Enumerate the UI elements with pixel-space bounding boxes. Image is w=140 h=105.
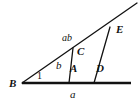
geometry-figure: B C E A D a b ab 1 [0, 0, 140, 105]
segment-E-to-D [94, 27, 110, 83]
segment-label-ab: ab [62, 33, 72, 43]
angle-label-1: 1 [37, 71, 42, 81]
vertex-label-D: D [96, 63, 104, 74]
segment-label-a: a [70, 89, 76, 100]
vertex-label-E: E [116, 24, 123, 35]
segment-label-b: b [56, 60, 62, 71]
vertex-label-C: C [77, 46, 84, 57]
vertex-label-B: B [9, 78, 16, 89]
vertex-label-A: A [70, 63, 77, 74]
